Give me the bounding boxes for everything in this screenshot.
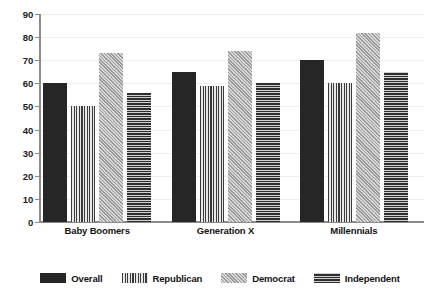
chart-legend: OverallRepublicanDemocratIndependent <box>0 268 440 288</box>
bar <box>384 72 408 222</box>
bar <box>300 60 324 222</box>
y-axis-tick-label: 60 <box>23 78 33 89</box>
bar-chart: 0102030405060708090 Baby BoomersGenerati… <box>0 0 440 304</box>
bar <box>127 93 151 222</box>
legend-swatch-icon <box>122 273 148 283</box>
x-axis-category-label: Baby Boomers <box>65 225 130 236</box>
legend-item[interactable]: Independent <box>314 273 400 284</box>
y-axis-tick-label: 90 <box>23 9 33 20</box>
y-axis-tick-label: 30 <box>23 147 33 158</box>
x-axis-category-labels: Baby BoomersGeneration XMillennials <box>39 225 424 243</box>
bar <box>43 83 67 222</box>
x-axis-category-label: Generation X <box>197 225 254 236</box>
bar <box>71 106 95 222</box>
legend-label: Democrat <box>252 273 295 284</box>
legend-label: Independent <box>345 273 400 284</box>
legend-item[interactable]: Democrat <box>221 273 295 284</box>
y-axis-tick-label: 10 <box>23 193 33 204</box>
legend-label: Overall <box>71 273 102 284</box>
bar <box>228 51 252 222</box>
bar <box>200 86 224 222</box>
y-axis-tick-label: 70 <box>23 55 33 66</box>
x-axis-category-label: Millennials <box>330 225 377 236</box>
legend-item[interactable]: Republican <box>122 273 203 284</box>
y-axis-tick-label: 20 <box>23 170 33 181</box>
bars-layer <box>39 14 424 222</box>
legend-swatch-icon <box>314 273 340 283</box>
legend-swatch-icon <box>40 273 66 283</box>
bar <box>256 83 280 222</box>
legend-swatch-icon <box>221 273 247 283</box>
y-axis-tick-label: 0 <box>28 217 33 228</box>
bar <box>172 72 196 222</box>
bar <box>356 33 380 223</box>
y-axis-tick-labels: 0102030405060708090 <box>0 14 33 222</box>
legend-item[interactable]: Overall <box>40 273 102 284</box>
bar <box>99 53 123 222</box>
bar <box>328 83 352 222</box>
y-axis-tick-label: 50 <box>23 101 33 112</box>
y-axis-tick-label: 40 <box>23 124 33 135</box>
legend-label: Republican <box>153 273 203 284</box>
y-axis-tick-label: 80 <box>23 32 33 43</box>
